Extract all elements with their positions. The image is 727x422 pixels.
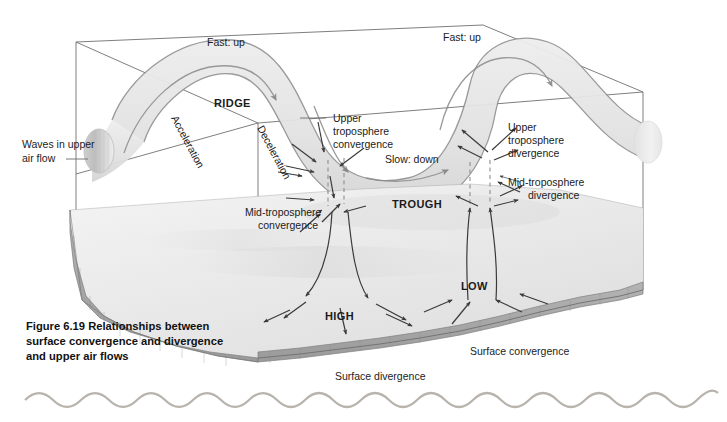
figure-container: Waves in upper air flow Fast: up Fast: u… — [0, 0, 727, 422]
label-trough: TROUGH — [392, 198, 442, 210]
figure-caption: Figure 6.19 Relationships between surfac… — [26, 320, 223, 362]
caption-line-1: Figure 6.19 Relationships between — [26, 320, 210, 332]
label-upper-convergence-line3: convergence — [333, 138, 393, 150]
label-mid-divergence-line2: divergence — [528, 189, 580, 201]
label-upper-divergence-line1: Upper — [508, 121, 537, 133]
label-surface-divergence: Surface divergence — [335, 370, 426, 382]
atmospheric-circulation-diagram: Waves in upper air flow Fast: up Fast: u… — [0, 0, 727, 422]
caption-line-2: surface convergence and divergence — [26, 335, 223, 347]
label-upper-divergence-line3: divergence — [508, 147, 560, 159]
label-acceleration: Acceleration — [169, 113, 207, 170]
label-high: HIGH — [325, 310, 354, 322]
caption-line-3: and upper air flows — [26, 350, 129, 362]
label-mid-convergence-line1: Mid-troposphere — [245, 206, 322, 218]
label-waves-upper-air-line1: Waves in upper — [22, 138, 95, 150]
label-upper-divergence-line2: troposphere — [508, 134, 564, 146]
label-slow-down: Slow: down — [385, 153, 439, 165]
label-upper-convergence-line1: Upper — [333, 112, 362, 124]
label-low: LOW — [461, 280, 488, 292]
label-mid-divergence-line1: Mid-troposphere — [508, 176, 585, 188]
label-ridge: RIDGE — [214, 97, 251, 109]
decorative-wave-divider — [25, 391, 718, 407]
flow-tube-end-right — [634, 121, 662, 163]
label-mid-convergence-line2: convergence — [258, 219, 318, 231]
label-fast-up-left: Fast: up — [207, 36, 245, 48]
flow-tube-end-left — [84, 129, 114, 173]
label-upper-convergence-line2: troposphere — [333, 125, 389, 137]
label-surface-convergence: Surface convergence — [470, 345, 569, 357]
label-waves-upper-air-line2: air flow — [22, 152, 56, 164]
label-fast-up-right: Fast: up — [443, 31, 481, 43]
